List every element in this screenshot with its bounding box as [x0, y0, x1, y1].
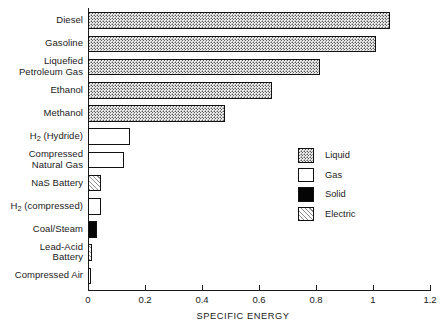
- x-axis-tick-mark: [145, 285, 146, 291]
- legend-swatch-liquid: [298, 148, 314, 163]
- bar-row: [88, 56, 430, 77]
- legend-label: Solid: [325, 189, 346, 200]
- bar: [88, 221, 97, 238]
- bar-row: [88, 242, 430, 263]
- legend-item: Gas: [298, 168, 408, 188]
- category-label: Coal/Steam: [33, 224, 83, 235]
- x-axis-tick-label: 0.4: [195, 294, 208, 305]
- legend-label: Gas: [325, 170, 342, 181]
- x-axis-tick-label: 1.2: [423, 294, 436, 305]
- legend-label: Electric: [325, 209, 355, 220]
- category-label: NaS Battery: [31, 178, 83, 189]
- x-axis-tick-label: 0.6: [252, 294, 265, 305]
- bar: [88, 152, 124, 169]
- category-label: Methanol: [44, 108, 83, 119]
- bar: [88, 198, 101, 215]
- bar: [88, 244, 92, 261]
- legend-swatch-solid: [298, 187, 314, 202]
- bar-row: [88, 10, 430, 31]
- bar-row: [88, 265, 430, 286]
- x-axis-tick-mark: [373, 285, 374, 291]
- bar: [88, 82, 272, 99]
- bar-row: [88, 80, 430, 101]
- legend-swatch-electric: [298, 207, 314, 222]
- x-axis-tick-mark: [259, 285, 260, 291]
- x-axis-tick-mark: [430, 285, 431, 291]
- bar: [88, 59, 320, 76]
- category-label: LiquefiedPetroleum Gas: [19, 56, 83, 77]
- category-label: Ethanol: [50, 85, 83, 96]
- legend-swatch-gas: [298, 168, 314, 183]
- category-label: Gasoline: [45, 38, 83, 49]
- legend-label: Liquid: [325, 150, 350, 161]
- legend-item: Solid: [298, 187, 408, 207]
- bar: [88, 36, 376, 53]
- bar-row: [88, 33, 430, 54]
- category-label: H2 (Hydride): [30, 131, 83, 143]
- bar: [88, 268, 91, 285]
- x-axis-title-text: SPECIFIC ENERGY: [159, 311, 290, 321]
- x-axis-tick-mark: [316, 285, 317, 291]
- x-axis-tick-label: 0.8: [309, 294, 322, 305]
- category-label: Diesel: [56, 15, 83, 26]
- category-label: CompressedNatural Gas: [29, 149, 83, 170]
- x-axis-tick-label: 0.2: [138, 294, 151, 305]
- x-axis-title: SPECIFIC ENERGY: [0, 311, 448, 321]
- specific-energy-bar-chart: DieselGasolineLiquefiedPetroleum GasEtha…: [0, 0, 448, 330]
- bar-row: [88, 126, 430, 147]
- category-label: Lead-AcidBattery: [40, 242, 83, 263]
- x-axis-tick-mark: [88, 285, 89, 291]
- bar: [88, 128, 130, 145]
- bar: [88, 175, 101, 192]
- chart-legend: LiquidGasSolidElectric: [298, 148, 408, 226]
- bar: [88, 105, 225, 122]
- legend-item: Liquid: [298, 148, 408, 168]
- bar-row: [88, 103, 430, 124]
- category-label: Compressed Air: [15, 270, 83, 281]
- legend-item: Electric: [298, 207, 408, 227]
- x-axis-tick-label: 0: [85, 294, 90, 305]
- x-axis-tick-mark: [202, 285, 203, 291]
- x-axis-tick-label: 1: [370, 294, 375, 305]
- category-label: H2 (compressed): [11, 201, 83, 213]
- bar: [88, 12, 390, 29]
